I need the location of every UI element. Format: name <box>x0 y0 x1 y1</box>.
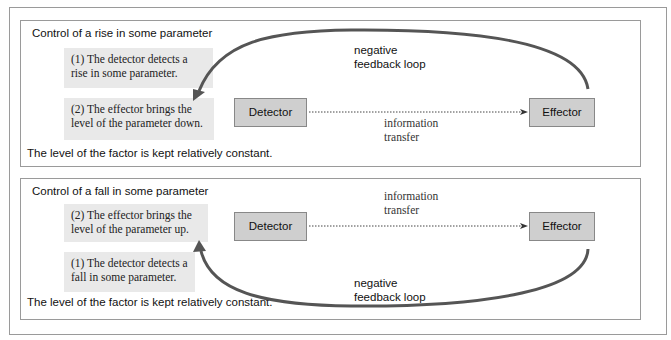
arrowhead-icon <box>520 109 528 115</box>
panel-rise: Control of a rise in some parameter (1) … <box>20 20 641 167</box>
negative-feedback-loop-arrow <box>199 30 588 91</box>
arrowhead-icon <box>520 223 528 229</box>
panel-1-arrows <box>21 21 642 168</box>
panel-2-arrows <box>21 179 642 321</box>
negative-feedback-loop-arrow <box>201 249 588 306</box>
feedback-arrowhead-icon <box>193 240 206 252</box>
panel-fall: Control of a fall in some parameter (2) … <box>20 178 641 320</box>
feedback-arrowhead-icon <box>193 89 205 101</box>
